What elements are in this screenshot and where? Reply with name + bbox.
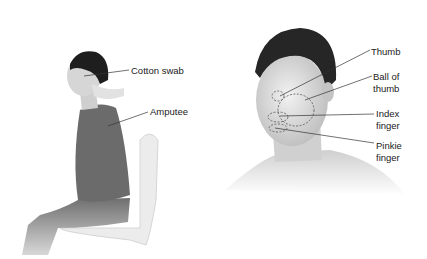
label-thumb: Thumb [371,46,401,57]
torso [75,104,130,201]
label-amputee: Amputee [150,106,188,117]
label-ball-of-thumb-line2: thumb [373,83,399,94]
label-pinkie-finger-line2: finger [376,152,400,163]
label-ball-of-thumb-line1: Ball of [373,71,399,82]
label-index-finger-line2: finger [376,120,400,131]
seated-amputee-figure [22,51,158,255]
helper-arm [92,84,124,99]
illustration [0,0,427,259]
label-pinkie-finger-line1: Pinkie [376,140,402,151]
label-index-finger-line1: Index [376,108,399,119]
legs [22,198,130,255]
figure: Cotton swab Amputee Thumb Ball of thumb … [0,0,427,259]
label-cotton-swab: Cotton swab [131,65,184,76]
